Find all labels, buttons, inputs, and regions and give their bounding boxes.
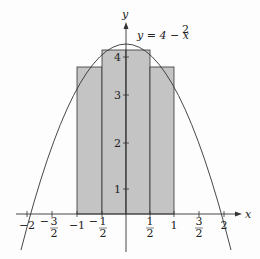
rectangle-3 xyxy=(126,50,150,214)
y-tick-label: 2 xyxy=(114,137,121,150)
function-label-exponent: 2 xyxy=(182,23,189,36)
svg-text:2: 2 xyxy=(147,227,154,240)
svg-text:−: − xyxy=(40,215,49,228)
rectangle-4 xyxy=(150,67,174,214)
x-tick-label-frac: − 1 2 xyxy=(89,215,107,240)
y-axis-arrow-icon xyxy=(124,22,129,29)
y-tick-label: 4 xyxy=(114,51,121,64)
svg-text:2: 2 xyxy=(100,227,107,240)
x-tick-labels: −2 − 3 2 −1 − 1 2 1 2 1 3 2 2 xyxy=(19,215,228,240)
svg-text:2: 2 xyxy=(196,227,203,240)
chart-svg: −2 − 3 2 −1 − 1 2 1 2 1 3 2 2 1 2 3 xyxy=(0,0,260,259)
y-tick-label: 3 xyxy=(114,89,121,102)
x-tick-label-frac: 3 2 xyxy=(195,215,203,240)
x-tick-label-frac: − 3 2 xyxy=(40,215,58,240)
x-tick-label: −1 xyxy=(69,219,85,232)
rectangle-1 xyxy=(77,67,102,214)
x-tick-label: 2 xyxy=(221,219,228,232)
x-tick-label-frac: 1 2 xyxy=(146,215,154,240)
x-tick-label: −2 xyxy=(19,219,35,232)
chart-figure: −2 − 3 2 −1 − 1 2 1 2 1 3 2 2 1 2 3 xyxy=(0,0,260,259)
y-tick-label: 1 xyxy=(114,183,121,196)
svg-text:−: − xyxy=(89,215,98,228)
x-axis-label: x xyxy=(245,208,252,221)
y-axis-label: y xyxy=(121,8,129,21)
svg-text:2: 2 xyxy=(51,227,58,240)
x-tick-label: 1 xyxy=(171,219,178,232)
x-axis-arrow-icon xyxy=(235,212,242,217)
